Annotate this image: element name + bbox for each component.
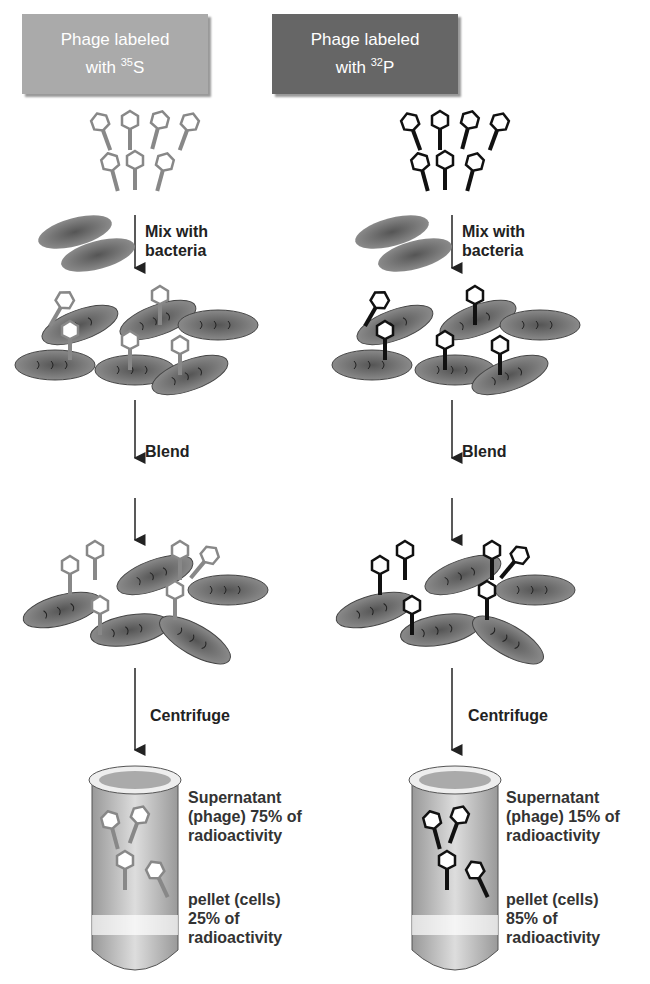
flow-arrows bbox=[135, 215, 452, 750]
blended-32p bbox=[332, 541, 575, 673]
infected-32p bbox=[332, 286, 580, 403]
step-centrifuge-35s: Centrifuge bbox=[150, 706, 230, 725]
step-centrifuge-32p: Centrifuge bbox=[468, 706, 548, 725]
infected-35s bbox=[15, 286, 258, 403]
supernatant-35s: Supernatant(phage) 75% ofradioactivity bbox=[188, 788, 302, 845]
tube-35s bbox=[89, 766, 181, 970]
phages-32p bbox=[399, 109, 510, 193]
step-blend-35s: Blend bbox=[145, 442, 189, 461]
tube-32p bbox=[409, 766, 501, 970]
step-blend-32p: Blend bbox=[462, 442, 506, 461]
step-mix-35s: Mix withbacteria bbox=[145, 222, 208, 260]
phages-35s bbox=[89, 109, 200, 193]
pellet-35s: pellet (cells)25% ofradioactivity bbox=[188, 890, 282, 947]
pellet-32p: pellet (cells)85% ofradioactivity bbox=[506, 890, 600, 947]
step-mix-32p: Mix withbacteria bbox=[462, 222, 525, 260]
supernatant-32p: Supernatant(phage) 15% ofradioactivity bbox=[506, 788, 620, 845]
blended-35s bbox=[19, 541, 268, 673]
